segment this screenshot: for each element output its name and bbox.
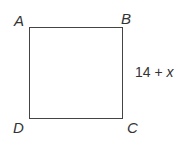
side-length-operator: + xyxy=(154,64,162,80)
square-abcd xyxy=(29,27,123,119)
side-length-variable: x xyxy=(167,64,174,80)
vertex-label-b: B xyxy=(121,11,131,26)
vertex-label-d: D xyxy=(13,120,24,135)
side-length-label: 14 + x xyxy=(135,65,174,79)
side-length-constant: 14 xyxy=(135,64,151,80)
vertex-label-c: C xyxy=(127,120,138,135)
vertex-label-a: A xyxy=(14,13,24,28)
